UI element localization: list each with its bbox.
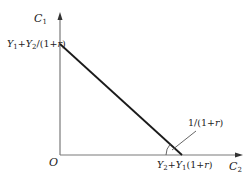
budget-constraint-diagram: C1 Y1+Y2/(1+r) O Y2+Y1(1+r) 1/(1+r) C2 bbox=[0, 0, 250, 181]
slope-label: 1/(1+r) bbox=[188, 118, 223, 128]
slope-angle-arc bbox=[166, 144, 170, 155]
slope-leader-line bbox=[172, 131, 196, 150]
y-intercept-label: Y1+Y2/(1+r) bbox=[7, 39, 66, 51]
x-intercept-label: Y2+Y1(1+r) bbox=[157, 160, 212, 172]
x-axis-arrow-icon bbox=[235, 153, 243, 158]
x-axis-label: C2 bbox=[229, 161, 242, 174]
budget-line bbox=[60, 44, 182, 155]
origin-label: O bbox=[49, 157, 58, 168]
diagram-canvas bbox=[0, 0, 250, 181]
y-axis-label: C1 bbox=[34, 13, 47, 26]
y-axis-arrow-icon bbox=[58, 12, 63, 20]
